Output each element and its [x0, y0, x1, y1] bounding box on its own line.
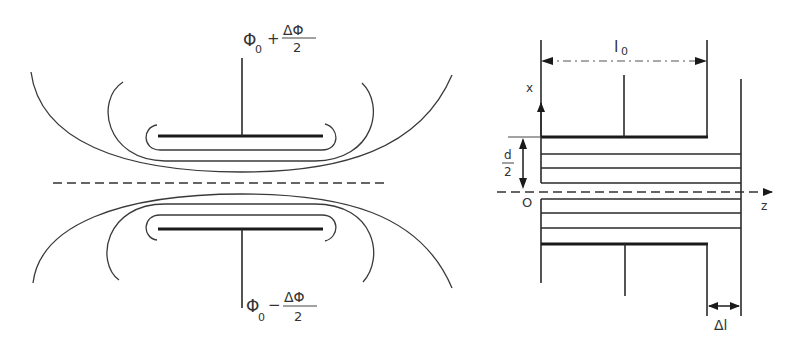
delta-l-right-arrowhead: [730, 302, 740, 310]
diagram-canvas: Φ 0 + ΔΦ 2 Φ 0 − ΔΦ 2 z O x l: [0, 0, 795, 346]
top-middle-equipotential: [108, 82, 373, 161]
delta-l-label: Δl: [714, 317, 727, 333]
delta-l-left-arrowhead: [708, 302, 718, 310]
phi-subscript: 0: [258, 311, 265, 324]
l0-subscript: 0: [621, 45, 628, 58]
top-potential-label: Φ 0 + ΔΦ 2: [243, 22, 316, 56]
electrode-geometry-diagram: z O x l 0 Δl: [497, 37, 772, 333]
minus-sign: −: [268, 296, 281, 314]
d2-top-arrowhead: [519, 138, 527, 149]
x-axis-label: x: [526, 81, 533, 95]
fraction-denominator: 2: [294, 309, 302, 324]
d2-bottom-arrowhead: [519, 178, 527, 189]
plus-sign: +: [267, 30, 280, 48]
phi-subscript: 0: [255, 43, 262, 56]
l0-right-arrowhead: [695, 57, 707, 65]
bottom-potential-label: Φ 0 − ΔΦ 2: [246, 289, 317, 324]
l0-left-arrowhead: [541, 57, 553, 65]
origin-label: O: [522, 195, 532, 210]
fraction-numerator: ΔΦ: [283, 22, 304, 38]
d2-denominator: 2: [504, 165, 512, 179]
fraction-denominator: 2: [293, 40, 301, 55]
d2-numerator: d: [504, 148, 512, 162]
l0-label: l: [614, 37, 618, 56]
fraction-numerator: ΔΦ: [284, 289, 305, 305]
bottom-middle-equipotential: [107, 204, 374, 282]
z-axis-label: z: [761, 199, 767, 213]
electrode-field-diagram: Φ 0 + ΔΦ 2 Φ 0 − ΔΦ 2: [31, 22, 452, 324]
